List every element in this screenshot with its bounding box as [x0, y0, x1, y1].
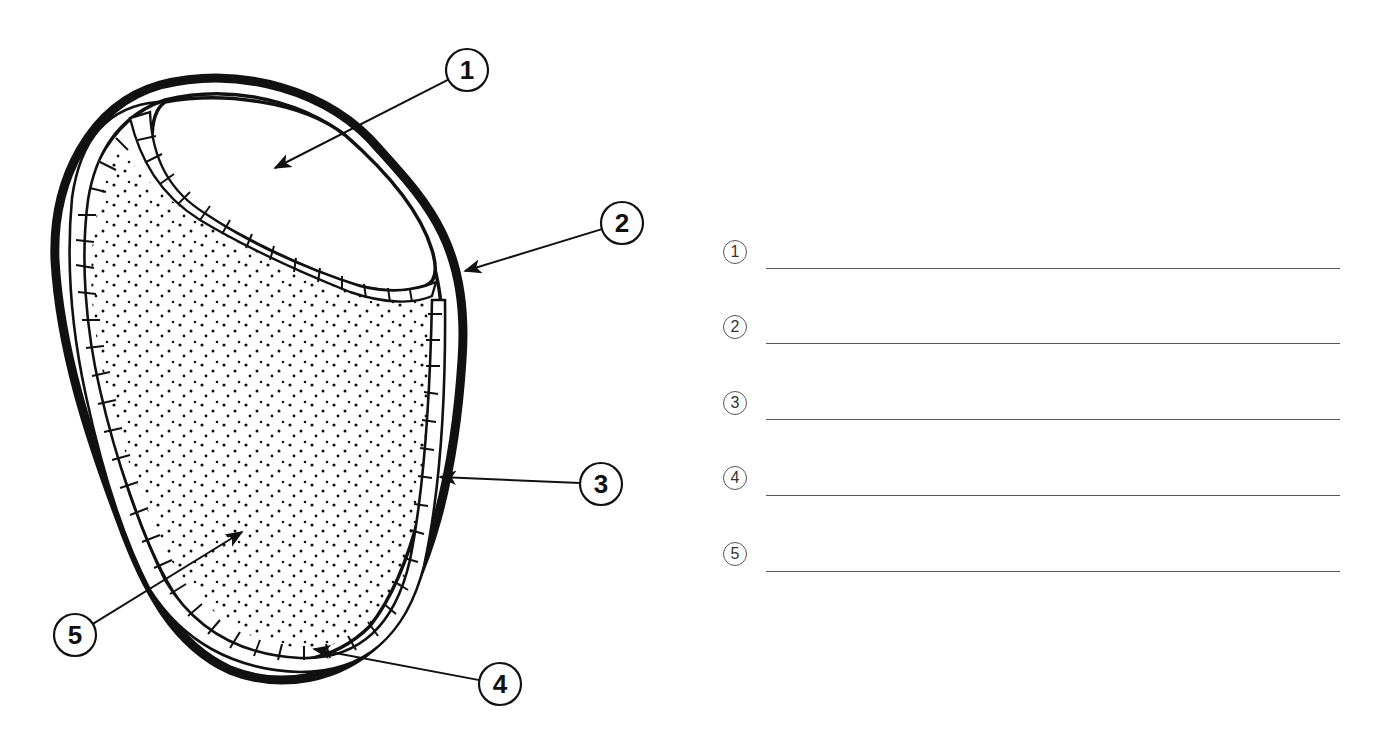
answer-number-badge: 2	[723, 315, 747, 339]
callout-arrow	[465, 229, 602, 271]
callout-2: 2	[465, 202, 643, 271]
answer-blank-line-2[interactable]	[766, 343, 1340, 344]
answer-number-badge: 5	[723, 542, 747, 566]
answer-number-badge: 1	[723, 240, 747, 264]
answer-number-badge: 4	[723, 466, 747, 490]
answer-blank-line-4[interactable]	[766, 495, 1340, 496]
answer-blank-line-1[interactable]	[766, 268, 1340, 269]
callout-number: 1	[460, 55, 474, 85]
answer-blank-line-5[interactable]	[766, 571, 1340, 572]
callout-number: 5	[68, 620, 82, 650]
callout-number: 2	[615, 208, 629, 238]
seed-diagram: 12345	[0, 0, 1388, 743]
callout-arrow	[440, 477, 580, 483]
answer-number-badge: 3	[723, 391, 747, 415]
callout-3: 3	[440, 463, 622, 505]
callout-number: 4	[493, 669, 508, 699]
answer-blank-line-3[interactable]	[766, 419, 1340, 420]
callout-number: 3	[594, 469, 608, 499]
